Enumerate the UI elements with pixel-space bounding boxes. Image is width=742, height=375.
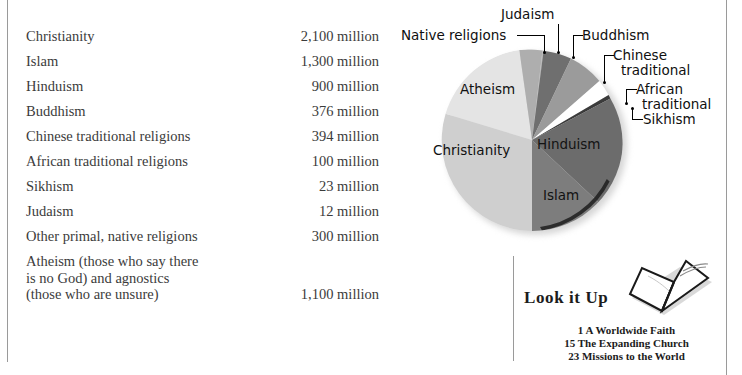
leader-judaism-vertical — [558, 24, 559, 52]
religion-population-table: Christianity 2,100 million Islam 1,300 m… — [26, 28, 379, 311]
african-line-2: traditional — [642, 97, 711, 112]
leader-dot-judaism — [557, 51, 560, 54]
religion-name: Judaism — [26, 203, 267, 220]
religion-value: 2,100 million — [267, 28, 379, 45]
leader-buddhism-vertical — [573, 35, 574, 57]
religion-name: Buddhism — [26, 103, 267, 120]
leader-dot-sikhism — [631, 107, 634, 110]
religion-name: Sikhism — [26, 178, 267, 195]
religion-name: Christianity — [26, 28, 267, 45]
pie-label-hinduism: Hinduism — [537, 137, 601, 152]
reference-item: 23 Missions to the World — [524, 350, 729, 363]
lookup-divider-rule — [513, 256, 514, 361]
religion-name: Chinese traditional religions — [26, 128, 267, 145]
leader-dot-buddhism — [572, 56, 575, 59]
atheism-line-1: Atheism (those who say there — [26, 253, 267, 270]
table-row: Islam 1,300 million — [26, 53, 379, 70]
pie-label-buddhism: Buddhism — [582, 28, 649, 43]
table-row: Buddhism 376 million — [26, 103, 379, 120]
reference-item: 15 The Expanding Church — [524, 337, 729, 350]
table-row: Hinduism 900 million — [26, 78, 379, 95]
pie-label-african-traditional: African traditional — [636, 82, 711, 111]
chinese-line-1: Chinese — [613, 48, 690, 63]
african-line-1: African — [636, 82, 711, 97]
pie-label-atheism: Atheism — [460, 82, 515, 97]
religion-value: 12 million — [267, 203, 379, 220]
table-row-atheism: Atheism (those who say there is no God) … — [26, 253, 379, 303]
religion-value: 1,300 million — [267, 53, 379, 70]
pie-chart: Atheism Christianity Hinduism Islam Juda… — [400, 0, 730, 255]
leader-sikhism-horizontal — [632, 119, 643, 120]
religion-value-atheism: 1,100 million — [267, 286, 379, 303]
pie-label-islam: Islam — [543, 188, 579, 203]
reference-item: 1 A Worldwide Faith — [524, 324, 729, 337]
leader-dot-native — [543, 51, 546, 54]
look-it-up-block: Look it Up 1 A Worldwide Faith 15 The Ex… — [524, 258, 729, 363]
pie-label-chinese-traditional: Chinese traditional — [613, 48, 690, 77]
leader-chinese-horizontal — [604, 55, 614, 56]
table-row: African traditional religions 100 millio… — [26, 153, 379, 170]
leader-buddhism-horizontal — [573, 35, 583, 36]
table-row: Judaism 12 million — [26, 203, 379, 220]
leader-dot-chinese — [603, 81, 606, 84]
religion-value: 900 million — [267, 78, 379, 95]
left-vertical-rule — [7, 0, 8, 362]
table-row: Christianity 2,100 million — [26, 28, 379, 45]
figure-page: Christianity 2,100 million Islam 1,300 m… — [0, 0, 742, 375]
table-row: Sikhism 23 million — [26, 178, 379, 195]
religion-name: African traditional religions — [26, 153, 267, 170]
table-row: Other primal, native religions 300 milli… — [26, 228, 379, 245]
atheism-line-3: (those who are unsure) — [26, 286, 267, 303]
religion-name: Islam — [26, 53, 267, 70]
religion-value: 300 million — [267, 228, 379, 245]
religion-name: Hinduism — [26, 78, 267, 95]
open-book-icon — [624, 258, 719, 316]
leader-dot-african — [625, 102, 628, 105]
religion-value: 376 million — [267, 103, 379, 120]
leader-native-horizontal — [517, 35, 545, 36]
religion-name-atheism: Atheism (those who say there is no God) … — [26, 253, 267, 303]
leader-african-vertical — [626, 89, 627, 103]
table-row: Chinese traditional religions 394 millio… — [26, 128, 379, 145]
look-it-up-title: Look it Up — [524, 288, 608, 308]
religion-value: 23 million — [267, 178, 379, 195]
leader-native-vertical — [544, 35, 545, 52]
chinese-line-2: traditional — [621, 63, 690, 78]
religion-value: 100 million — [267, 153, 379, 170]
religion-name: Other primal, native religions — [26, 228, 267, 245]
religion-value: 394 million — [267, 128, 379, 145]
atheism-line-2: is no God) and agnostics — [26, 270, 267, 287]
leader-chinese-vertical — [604, 55, 605, 82]
pie-label-christianity: Christianity — [433, 143, 510, 158]
look-it-up-references: 1 A Worldwide Faith 15 The Expanding Chu… — [524, 324, 729, 363]
pie-label-sikhism: Sikhism — [643, 112, 696, 127]
pie-label-native-religions: Native religions — [401, 28, 506, 43]
pie-label-judaism: Judaism — [501, 7, 554, 22]
leader-african-horizontal — [626, 89, 637, 90]
